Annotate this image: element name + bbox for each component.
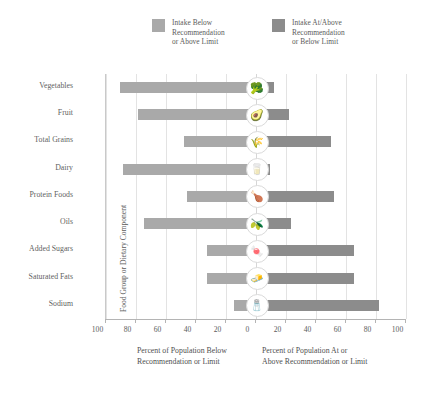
x-caption-left: Percent of Population Below Recommendati… [137, 345, 227, 367]
tick--40 [195, 319, 196, 323]
tick--80 [135, 319, 136, 323]
bar-row: Protein Foods🍗 [106, 183, 405, 210]
fats-icon: 🧈 [246, 267, 269, 290]
legend-item-below: Intake Below Recommendation or Above Lim… [152, 18, 225, 47]
bar-row: Added Sugars🍬 [106, 237, 405, 264]
bar-below-dairy[interactable] [123, 164, 257, 175]
category-label-sodium: Sodium [49, 299, 73, 308]
bar-atabove-sodium[interactable] [256, 300, 379, 311]
category-label-vegetables: Vegetables [39, 81, 73, 90]
fruit-icon: 🥑 [246, 104, 269, 127]
bar-row: Vegetables🥦 [106, 74, 405, 101]
legend-item-atabove: Intake At/Above Recommendation or Below … [272, 18, 345, 47]
bar-row: Fruit🥑 [106, 101, 405, 128]
tick-20 [285, 319, 286, 323]
tick--60 [165, 319, 166, 323]
bar-below-oils[interactable] [144, 218, 257, 229]
category-label-saturated-fats: Saturated Fats [29, 272, 73, 281]
bar-row: Oils🫒 [106, 210, 405, 237]
bar-row: Dairy🥛 [106, 156, 405, 183]
sugar-icon: 🍬 [246, 240, 269, 263]
oils-icon: 🫒 [246, 213, 269, 236]
category-label-total-grains: Total Grains [34, 135, 73, 144]
salt-icon: 🧂 [246, 294, 269, 317]
bar-below-fruit[interactable] [138, 109, 257, 120]
category-label-added-sugars: Added Sugars [29, 244, 73, 253]
x-caption-right: Percent of Population At or Above Recomm… [262, 345, 367, 367]
chart-legend: Intake Below Recommendation or Above Lim… [0, 14, 427, 62]
bar-row: Sodium🧂 [106, 292, 405, 319]
category-label-fruit: Fruit [58, 108, 73, 117]
bar-atabove-added-sugars[interactable] [256, 245, 354, 256]
category-label-dairy: Dairy [55, 163, 73, 172]
tick-80 [375, 319, 376, 323]
legend-label-atabove: Intake At/Above Recommendation or Below … [292, 18, 345, 47]
grains-icon: 🌾 [246, 131, 269, 154]
legend-swatch-atabove [272, 19, 285, 32]
bar-row: Total Grains🌾 [106, 128, 405, 155]
tick-60 [345, 319, 346, 323]
bar-atabove-saturated-fats[interactable] [256, 273, 354, 284]
legend-label-below: Intake Below Recommendation or Above Lim… [172, 18, 225, 47]
tick-40 [315, 319, 316, 323]
category-label-protein-foods: Protein Foods [29, 190, 73, 199]
protein-icon: 🍗 [246, 185, 269, 208]
broccoli-icon: 🥦 [246, 77, 269, 100]
tick-label-100: 100 [368, 325, 413, 334]
tick-0 [255, 319, 256, 323]
dairy-icon: 🥛 [246, 158, 269, 181]
tick--100 [105, 319, 106, 323]
gridline-100 [406, 74, 407, 319]
bar-row: Saturated Fats🧈 [106, 265, 405, 292]
tick--20 [225, 319, 226, 323]
legend-swatch-below [152, 19, 165, 32]
category-label-oils: Oils [60, 217, 73, 226]
tick-100 [405, 319, 406, 323]
plot-area: Vegetables🥦Fruit🥑Total Grains🌾Dairy🥛Prot… [105, 74, 405, 319]
bar-below-vegetables[interactable] [120, 82, 257, 93]
